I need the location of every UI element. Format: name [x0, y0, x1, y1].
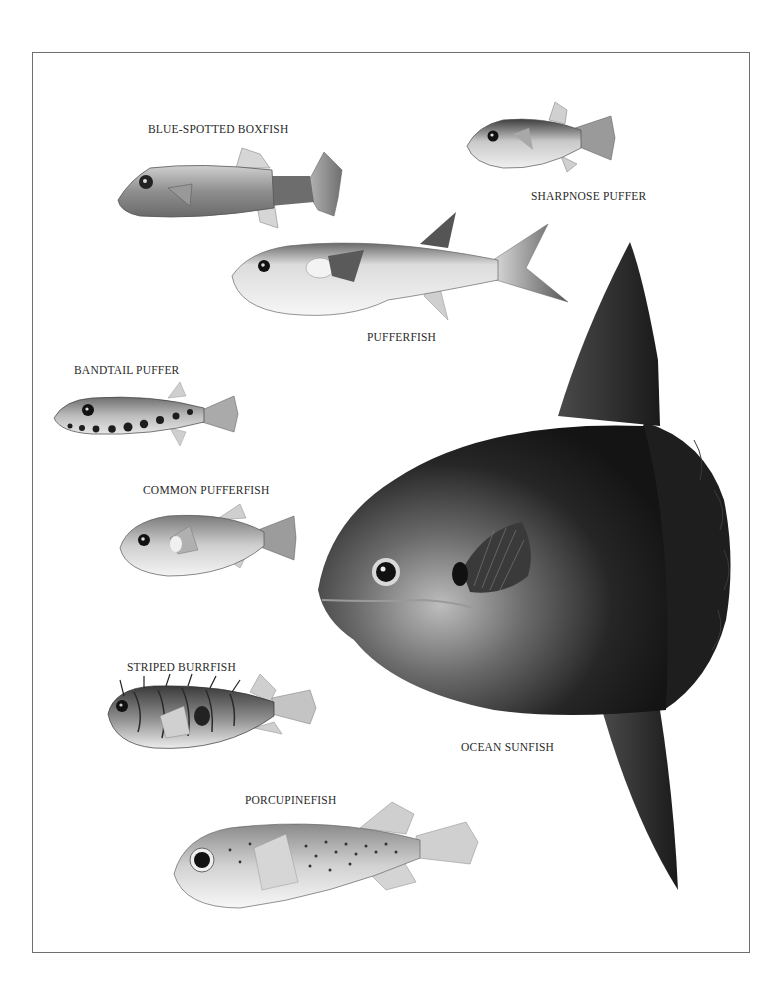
- label-bandtail-puffer: BANDTAIL PUFFER: [74, 364, 179, 376]
- label-blue-spotted-boxfish: BLUE-SPOTTED BOXFISH: [148, 123, 288, 135]
- label-sharpnose-puffer: SHARPNOSE PUFFER: [531, 190, 646, 202]
- bandtail-puffer-illustration: [52, 380, 242, 450]
- ocean-sunfish-illustration: [314, 240, 734, 892]
- label-common-pufferfish: COMMON PUFFERFISH: [143, 484, 269, 496]
- sharpnose-puffer-illustration: [463, 98, 623, 180]
- common-pufferfish-illustration: [118, 498, 298, 582]
- striped-burrfish-illustration: [104, 672, 319, 757]
